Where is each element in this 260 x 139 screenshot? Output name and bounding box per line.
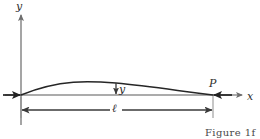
column-buckling-diagram [0,0,260,139]
x-axis-label: x [247,91,253,102]
figure-container: y x y P ℓ Figure 1f [0,0,260,139]
length-label: ℓ [112,103,117,114]
deflection-label: y [119,84,125,95]
load-label-p: P [209,78,216,89]
deflected-column-curve [21,82,213,95]
figure-caption: Figure 1f [205,127,256,138]
y-axis-label: y [16,1,22,12]
